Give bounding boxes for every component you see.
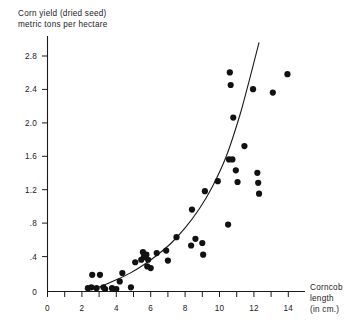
y-tick-label-0: 0 bbox=[32, 288, 37, 297]
x-tick-label-14: 14 bbox=[284, 304, 294, 313]
data-point bbox=[117, 278, 123, 284]
x-axis-title-line2: length bbox=[310, 294, 334, 303]
fitted-curve bbox=[91, 42, 260, 289]
data-point bbox=[145, 257, 151, 263]
y-axis-tick-labels: 2.8 2.4 2.0 1.6 1.2 .8 .4 0 bbox=[25, 52, 37, 297]
data-point bbox=[256, 191, 262, 197]
data-point bbox=[284, 71, 290, 77]
y-tick-label-2-8: 2.8 bbox=[25, 52, 37, 61]
data-point bbox=[119, 270, 125, 276]
data-point bbox=[228, 82, 234, 88]
x-tick-label-0: 0 bbox=[45, 304, 50, 313]
data-point bbox=[88, 284, 94, 290]
x-tick-label-2: 2 bbox=[80, 304, 85, 313]
data-point bbox=[97, 272, 103, 278]
data-point bbox=[173, 234, 179, 240]
data-point bbox=[165, 257, 171, 263]
x-tick-label-4: 4 bbox=[114, 304, 119, 313]
data-point bbox=[113, 286, 119, 292]
data-point bbox=[188, 242, 194, 248]
data-point bbox=[254, 170, 260, 176]
y-tick-label-0-8: .8 bbox=[30, 219, 37, 228]
x-axis-ticks bbox=[48, 292, 289, 298]
scatter-plot: Corn yield (dried seed) metric tons per … bbox=[0, 0, 345, 322]
data-point bbox=[234, 179, 240, 185]
data-point bbox=[270, 89, 276, 95]
data-point bbox=[192, 236, 198, 242]
y-tick-label-2-4: 2.4 bbox=[25, 85, 37, 94]
y-tick-label-1-2: 1.2 bbox=[25, 186, 37, 195]
data-point bbox=[230, 115, 236, 121]
data-point bbox=[227, 69, 233, 75]
data-point bbox=[229, 156, 235, 162]
data-point bbox=[250, 86, 256, 92]
x-tick-label-6: 6 bbox=[148, 304, 153, 313]
x-tick-label-10: 10 bbox=[215, 304, 225, 313]
data-point bbox=[132, 259, 138, 265]
chart-container: Corn yield (dried seed) metric tons per … bbox=[0, 0, 345, 322]
x-tick-label-8: 8 bbox=[183, 304, 188, 313]
y-tick-label-2-0: 2.0 bbox=[25, 119, 37, 128]
data-point bbox=[89, 272, 95, 278]
data-point bbox=[241, 143, 247, 149]
data-point bbox=[200, 252, 206, 258]
data-point bbox=[148, 265, 154, 271]
x-axis-title-line3: (in cm.) bbox=[310, 305, 339, 314]
data-point bbox=[215, 178, 221, 184]
y-axis-title-line2: metric tons per hectare bbox=[18, 20, 108, 29]
data-point bbox=[102, 286, 108, 292]
data-point bbox=[128, 284, 134, 290]
data-point bbox=[154, 250, 160, 256]
y-axis-ticks bbox=[42, 56, 48, 257]
data-point bbox=[93, 285, 99, 291]
data-point bbox=[199, 240, 205, 246]
data-point bbox=[225, 222, 231, 228]
y-tick-label-1-6: 1.6 bbox=[25, 152, 37, 161]
data-point bbox=[189, 206, 195, 212]
x-tick-label-12: 12 bbox=[249, 304, 259, 313]
data-point bbox=[255, 180, 261, 186]
data-point bbox=[163, 247, 169, 253]
y-axis-title-line1: Corn yield (dried seed) bbox=[18, 9, 107, 18]
x-axis-title-line1: Corncob bbox=[310, 283, 343, 292]
data-points-layer bbox=[85, 69, 291, 292]
x-axis-tick-labels: 0 2 4 6 8 10 12 14 bbox=[45, 304, 293, 313]
data-point bbox=[233, 167, 239, 173]
y-tick-label-0-4: .4 bbox=[30, 253, 37, 262]
data-point bbox=[202, 188, 208, 194]
